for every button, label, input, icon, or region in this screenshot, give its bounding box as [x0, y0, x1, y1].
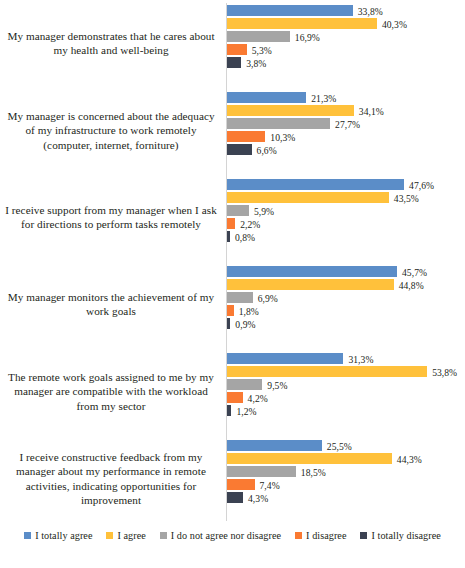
- legend-swatch-icon: [295, 532, 302, 539]
- bar-value-label: 18,5%: [301, 466, 326, 477]
- bar-value-label: 47,6%: [409, 179, 434, 190]
- legend-label: I agree: [117, 530, 145, 541]
- bar: [227, 479, 255, 490]
- bar: [227, 453, 392, 464]
- bar-value-label: 25,5%: [327, 440, 352, 451]
- bar: [227, 192, 389, 203]
- bar: [227, 18, 377, 29]
- bar: [227, 179, 404, 190]
- bar-value-label: 9,5%: [267, 379, 287, 390]
- legend-item[interactable]: I disagree: [295, 530, 346, 541]
- bar-value-label: 21,3%: [311, 92, 336, 103]
- bar: [227, 440, 322, 451]
- legend-item[interactable]: I totally disagree: [360, 530, 440, 541]
- legend-item[interactable]: I do not agree nor disagree: [160, 530, 281, 541]
- bar-value-label: 34,1%: [359, 105, 384, 116]
- likert-bar-chart: My manager demonstrates that he cares ab…: [0, 0, 465, 568]
- bar: [227, 266, 397, 277]
- legend-item[interactable]: I totally agree: [24, 530, 92, 541]
- bar-value-label: 0,9%: [235, 318, 255, 329]
- bar-value-label: 44,8%: [399, 279, 424, 290]
- bar-value-label: 40,3%: [382, 18, 407, 29]
- bar: [227, 353, 343, 364]
- bar: [227, 144, 252, 155]
- bar: [227, 492, 243, 503]
- bar-value-label: 33,8%: [358, 5, 383, 16]
- category-label: My manager is concerned about the adequa…: [2, 109, 220, 153]
- bar: [227, 466, 296, 477]
- bar: [227, 5, 353, 16]
- bar-value-label: 53,8%: [432, 366, 457, 377]
- bar-value-label: 27,7%: [335, 118, 360, 129]
- bar: [227, 44, 247, 55]
- bar: [227, 292, 253, 303]
- legend-item[interactable]: I agree: [106, 530, 145, 541]
- bar: [227, 231, 230, 242]
- bar-value-label: 16,9%: [295, 31, 320, 42]
- bar: [227, 279, 394, 290]
- category-group: My manager monitors the achievement of m…: [0, 261, 465, 348]
- category-group: My manager is concerned about the adequa…: [0, 87, 465, 174]
- bar-value-label: 6,9%: [258, 292, 278, 303]
- category-label: I receive support from my manager when I…: [2, 203, 220, 232]
- bar: [227, 392, 243, 403]
- bar: [227, 57, 241, 68]
- category-group: I receive support from my manager when I…: [0, 174, 465, 261]
- bar-value-label: 5,3%: [252, 44, 272, 55]
- bar: [227, 318, 230, 329]
- bar: [227, 379, 262, 390]
- category-label: The remote work goals assigned to me by …: [2, 370, 220, 414]
- category-label: I receive constructive feedback from my …: [2, 449, 220, 507]
- bar-value-label: 45,7%: [402, 266, 427, 277]
- legend-label: I totally agree: [35, 530, 92, 541]
- legend-swatch-icon: [160, 532, 167, 539]
- bar-value-label: 44,3%: [397, 453, 422, 464]
- bar-value-label: 1,8%: [239, 305, 259, 316]
- bar-value-label: 2,2%: [240, 218, 260, 229]
- category-label: My manager demonstrates that he cares ab…: [2, 29, 220, 58]
- legend-label: I disagree: [306, 530, 346, 541]
- bar-value-label: 5,9%: [254, 205, 274, 216]
- bar: [227, 105, 354, 116]
- bar: [227, 131, 265, 142]
- bar-value-label: 4,3%: [248, 492, 268, 503]
- legend-swatch-icon: [360, 532, 367, 539]
- bar-value-label: 4,2%: [248, 392, 268, 403]
- bar-value-label: 10,3%: [270, 131, 295, 142]
- bar: [227, 118, 330, 129]
- chart-legend: I totally agreeI agreeI do not agree nor…: [0, 530, 465, 541]
- category-group: My manager demonstrates that he cares ab…: [0, 0, 465, 87]
- bar-value-label: 0,8%: [235, 231, 255, 242]
- bar-value-label: 6,6%: [257, 144, 277, 155]
- bar-value-label: 1,2%: [236, 405, 256, 416]
- bar: [227, 31, 290, 42]
- bar-value-label: 43,5%: [394, 192, 419, 203]
- bar: [227, 405, 231, 416]
- category-group: The remote work goals assigned to me by …: [0, 348, 465, 435]
- bar: [227, 366, 427, 377]
- bar-value-label: 3,8%: [246, 57, 266, 68]
- bar-value-label: 31,3%: [348, 353, 373, 364]
- bar: [227, 305, 234, 316]
- legend-label: I do not agree nor disagree: [171, 530, 281, 541]
- legend-swatch-icon: [106, 532, 113, 539]
- legend-swatch-icon: [24, 532, 31, 539]
- bar: [227, 218, 235, 229]
- category-group: I receive constructive feedback from my …: [0, 435, 465, 522]
- bar: [227, 92, 306, 103]
- legend-label: I totally disagree: [371, 530, 440, 541]
- bar-value-label: 7,4%: [260, 479, 280, 490]
- plot-area: My manager demonstrates that he cares ab…: [0, 0, 465, 524]
- bar: [227, 205, 249, 216]
- category-label: My manager monitors the achievement of m…: [2, 290, 220, 319]
